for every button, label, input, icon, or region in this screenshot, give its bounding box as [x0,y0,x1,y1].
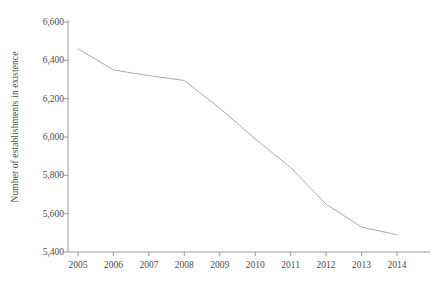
series-line-establishments [78,49,397,235]
plot-area [0,0,436,283]
axes-group [68,20,430,252]
x-axis-ticks [78,252,397,256]
y-axis-ticks [64,22,68,252]
data-series-group [78,49,397,235]
chart-figure: Number of establishments in existence 5,… [0,0,436,283]
